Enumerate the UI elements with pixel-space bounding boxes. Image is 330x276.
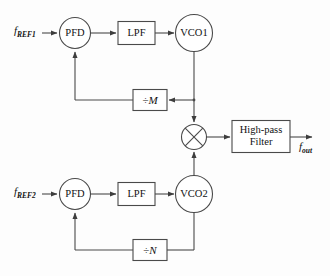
label-div-n: ÷N — [133, 244, 167, 256]
label-f-ref1: fREF1 — [14, 24, 36, 39]
hpf-line-2: Filter — [232, 136, 290, 148]
block-diagram: fREF1 PFD LPF VCO1 ÷M High-pass Filter f… — [0, 0, 330, 276]
label-lpf2: LPF — [118, 188, 155, 200]
f-ref1-sub: REF1 — [17, 30, 36, 39]
hpf-line-1: High-pass — [232, 124, 290, 136]
f-out-sub: out — [302, 146, 312, 155]
divide-var-m: M — [148, 94, 157, 106]
label-pfd1: PFD — [55, 27, 95, 39]
label-f-ref2: fREF2 — [14, 185, 36, 200]
label-pfd2: PFD — [55, 188, 95, 200]
label-vco1: VCO1 — [174, 27, 214, 39]
label-hpf: High-pass Filter — [232, 124, 290, 147]
label-lpf1: LPF — [118, 27, 155, 39]
label-f-out: fout — [299, 140, 312, 155]
divide-var-n: N — [149, 244, 156, 256]
label-div-m: ÷M — [133, 94, 167, 106]
junction-vco1-tap — [193, 99, 196, 102]
f-ref2-sub: REF2 — [17, 191, 36, 200]
label-vco2: VCO2 — [174, 188, 214, 200]
